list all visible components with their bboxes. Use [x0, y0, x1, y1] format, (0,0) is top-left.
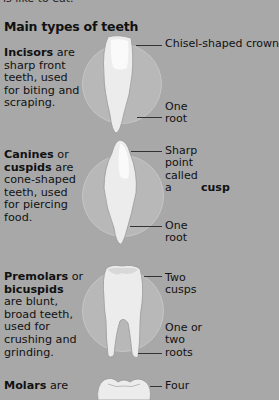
incisor-root-label: One root	[165, 101, 201, 126]
premolar-roots-label: One or two roots	[165, 322, 205, 359]
bicuspids-term: bicuspids	[4, 283, 64, 296]
previous-text-fragment: is like to eat.	[3, 0, 74, 5]
premolar-roots-leader-line	[138, 353, 162, 354]
four-cusps-leader-line	[150, 386, 162, 387]
canine-cusp-label: Sharp point called a cusp	[165, 145, 230, 195]
canine-root-leader-line	[130, 226, 162, 227]
canines-term: Canines	[4, 148, 54, 161]
canine-root-label: One root	[165, 220, 201, 245]
molar-cusps-label: Four	[165, 380, 189, 392]
incisors-term: Incisors	[4, 46, 53, 59]
chisel-crown-leader-line	[136, 45, 162, 46]
molars-term: Molars	[4, 379, 46, 392]
premolars-term: Premolars	[4, 270, 68, 283]
incisors-description: Incisors are sharp front teeth, used for…	[4, 47, 84, 110]
incisor-root-leader-line	[137, 117, 162, 118]
cuspids-term: cuspids	[4, 161, 52, 174]
molars-description: Molars are	[4, 380, 84, 393]
premolar-tooth-icon	[100, 263, 146, 361]
canines-description: Canines or cuspids are cone-shaped teeth…	[4, 149, 84, 225]
molar-tooth-icon	[94, 376, 154, 400]
two-cusps-leader-line	[144, 276, 162, 277]
incisor-tooth-icon	[98, 35, 138, 137]
cusp-leader-line	[131, 151, 162, 152]
section-title: Main types of teeth	[4, 19, 138, 34]
canine-tooth-icon	[100, 138, 140, 248]
premolar-cusps-label: Two cusps	[165, 272, 201, 297]
premolars-description: Premolars or bicuspids are blunt, broad …	[4, 271, 84, 359]
incisor-crown-label: Chisel-shaped crown	[165, 38, 279, 50]
